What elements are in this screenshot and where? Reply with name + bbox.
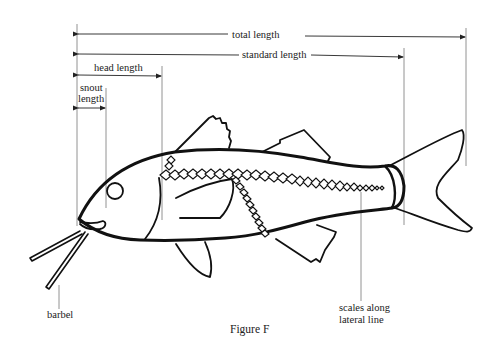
head-length-arrow	[78, 75, 161, 76]
standard-length-label: standard length	[242, 49, 307, 60]
scales-label-line1: scales along	[339, 302, 391, 313]
barbel-label: barbel	[47, 309, 73, 320]
head-length-label: head length	[94, 62, 143, 73]
barbel-lower	[46, 232, 88, 289]
gill-cover	[145, 178, 161, 239]
tail-base-line	[385, 166, 395, 208]
standard-length-arrow-left	[78, 54, 239, 55]
standard-length-arrow-right	[311, 55, 403, 57]
diagonal-scales	[232, 177, 269, 237]
pectoral-fin	[176, 179, 233, 218]
snout-length-label-line2: length	[78, 93, 105, 104]
eye	[107, 183, 123, 199]
scales-label-line2: lateral line	[339, 314, 384, 325]
fish-diagram: total length standard length head length…	[0, 0, 496, 350]
caudal-fin	[389, 130, 472, 232]
anal-fin	[276, 225, 336, 262]
snout-length-label-line1: snout	[80, 82, 103, 93]
lateral-row	[160, 169, 384, 191]
shoulder-scales	[165, 156, 175, 170]
lateral-line-scales	[160, 156, 384, 237]
first-dorsal-fin	[175, 116, 231, 152]
figure-caption: Figure F	[230, 323, 269, 336]
total-length-arrow-right	[305, 36, 465, 37]
pelvic-fin	[176, 242, 211, 277]
total-length-label: total length	[232, 29, 280, 40]
fish-body-outline	[79, 149, 404, 240]
